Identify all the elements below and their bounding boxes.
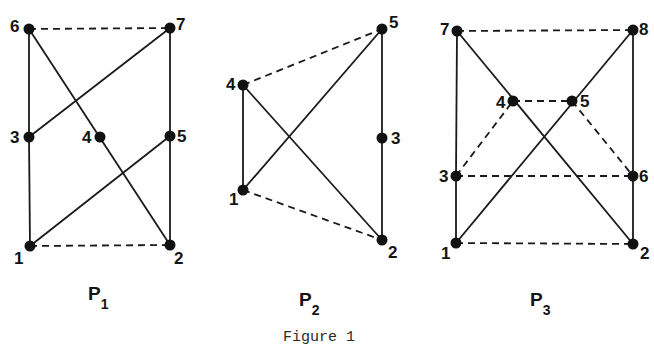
vertex-dot-7 xyxy=(165,23,176,34)
vertex-dot-2 xyxy=(377,235,388,246)
vertex-label-5: 5 xyxy=(580,92,589,111)
panel-label-letter: P xyxy=(530,289,543,310)
solid-edge-3-1 xyxy=(29,137,30,246)
panel-label-subscript: 3 xyxy=(543,302,551,318)
edges xyxy=(456,30,633,244)
vertex-dot-1 xyxy=(25,241,36,252)
solid-edge-1-5 xyxy=(30,136,170,246)
vertex-dot-6 xyxy=(24,24,35,35)
vertex-label-3: 3 xyxy=(391,129,400,148)
vertex-label-5: 5 xyxy=(177,127,186,146)
vertex-dot-4 xyxy=(508,96,519,107)
vertex-label-3: 3 xyxy=(439,167,448,186)
dashed-edge-5-6 xyxy=(572,101,633,176)
panel-label-p2: P2 xyxy=(299,289,320,318)
solid-edge-7-3 xyxy=(456,31,457,176)
vertex-label-5: 5 xyxy=(389,13,398,32)
panel-label-letter: P xyxy=(88,283,101,304)
figure-caption: Figure 1 xyxy=(283,329,355,345)
vertex-dot-5 xyxy=(567,96,578,107)
panel-label-subscript: 1 xyxy=(101,296,109,312)
vertex-label-7: 7 xyxy=(176,15,185,34)
vertex-dot-3 xyxy=(451,171,462,182)
dashed-edge-3-4 xyxy=(456,101,513,176)
dashed-edge-6-7 xyxy=(29,28,170,29)
dashed-edge-1-2 xyxy=(456,243,633,244)
vertex-dot-2 xyxy=(628,239,639,250)
vertex-dot-1 xyxy=(238,185,249,196)
edges xyxy=(243,29,382,240)
vertex-label-4: 4 xyxy=(82,128,92,147)
graph-panel-p1: 1234567P1 xyxy=(10,15,186,312)
vertex-dot-1 xyxy=(451,238,462,249)
vertex-label-8: 8 xyxy=(639,20,648,39)
vertex-dot-5 xyxy=(165,131,176,142)
panel-label-letter: P xyxy=(299,289,312,310)
panel-label-p3: P3 xyxy=(530,289,551,318)
graph-panel-p3: 12345678P3 xyxy=(439,20,649,318)
vertex-label-2: 2 xyxy=(174,249,183,268)
dashed-edge-1-2 xyxy=(243,190,382,240)
nodes: 12345 xyxy=(226,13,400,262)
graph-panels: 1234567P112345P212345678P3 xyxy=(10,13,649,318)
vertex-label-2: 2 xyxy=(388,243,397,262)
panel-label-p1: P1 xyxy=(88,283,109,312)
vertex-dot-5 xyxy=(377,24,388,35)
vertex-dot-8 xyxy=(628,25,639,36)
dashed-edge-7-8 xyxy=(457,30,633,31)
solid-edge-3-7 xyxy=(29,28,170,137)
vertex-dot-4 xyxy=(95,132,106,143)
vertex-label-4: 4 xyxy=(496,93,506,112)
vertex-label-1: 1 xyxy=(441,244,450,263)
vertex-label-1: 1 xyxy=(229,190,238,209)
panel-label-subscript: 2 xyxy=(312,302,320,318)
vertex-dot-4 xyxy=(238,80,249,91)
dashed-edge-4-5 xyxy=(243,29,382,85)
vertex-dot-6 xyxy=(628,171,639,182)
vertex-label-3: 3 xyxy=(10,128,19,147)
figure-1-diagram: 1234567P112345P212345678P3 Figure 1 xyxy=(0,0,654,345)
graph-panel-p2: 12345P2 xyxy=(226,13,400,318)
vertex-dot-3 xyxy=(377,133,388,144)
vertex-label-2: 2 xyxy=(640,244,649,263)
vertex-label-6: 6 xyxy=(10,17,19,36)
vertex-label-4: 4 xyxy=(226,75,236,94)
vertex-label-6: 6 xyxy=(639,167,648,186)
vertex-dot-7 xyxy=(452,26,463,37)
vertex-dot-3 xyxy=(24,132,35,143)
vertex-label-1: 1 xyxy=(14,249,23,268)
dashed-edge-1-2 xyxy=(30,245,170,246)
vertex-label-7: 7 xyxy=(440,20,449,39)
